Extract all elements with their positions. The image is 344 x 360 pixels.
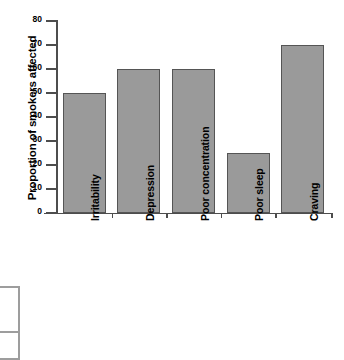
- y-tick-label: 80: [33, 14, 42, 24]
- y-tick-label: 70: [33, 38, 42, 48]
- x-tick: [166, 213, 168, 218]
- x-tick: [331, 213, 333, 218]
- y-tick-label: 30: [33, 134, 42, 144]
- x-tick: [221, 213, 223, 218]
- box-divider: [0, 331, 18, 333]
- y-tick-label: 0: [37, 206, 42, 216]
- y-tick-label: 40: [33, 110, 42, 120]
- y-tick-label: 10: [33, 182, 42, 192]
- clipped-table-box: [0, 286, 20, 360]
- y-tick-label: 20: [33, 158, 42, 168]
- x-axis-label: Depression: [144, 165, 156, 221]
- x-axis-label: Poor concentration: [199, 127, 211, 221]
- y-tick-label: 50: [33, 86, 42, 96]
- x-axis-label: Craving: [308, 183, 320, 221]
- x-tick: [275, 213, 277, 218]
- y-tick-label: 60: [33, 62, 42, 72]
- x-tick: [112, 213, 114, 218]
- x-axis-label: Poor sleep: [253, 168, 265, 221]
- x-axis-label: Irritability: [89, 174, 101, 221]
